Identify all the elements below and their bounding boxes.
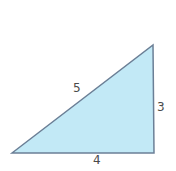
vertical-side-label: 3 <box>157 101 165 113</box>
triangle-figure <box>0 0 176 171</box>
hypotenuse-label: 5 <box>73 82 81 94</box>
right-triangle <box>12 45 154 153</box>
base-label: 4 <box>93 154 101 166</box>
